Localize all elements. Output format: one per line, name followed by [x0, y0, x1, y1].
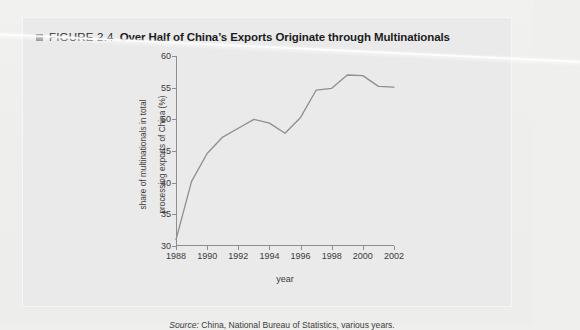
x-tick-mark: [269, 246, 270, 250]
x-tick-label: 1994: [259, 251, 279, 261]
x-tick-mark: [363, 246, 364, 250]
figure-caption: Over Half of China’s Exports Originate t…: [120, 31, 450, 43]
y-axis-label: share of multinationals in total process…: [130, 52, 146, 257]
x-tick-label: 2002: [384, 251, 404, 261]
x-tick-label: 1996: [291, 251, 311, 261]
data-line-series: [176, 56, 394, 246]
source-note: Source: China, National Bureau of Statis…: [132, 320, 432, 330]
x-tick-mark: [176, 246, 177, 250]
x-tick-label: 1998: [322, 251, 342, 261]
x-tick-mark: [394, 246, 395, 250]
source-text: China, National Bureau of Statistics, va…: [199, 320, 395, 330]
x-tick-label: 1992: [228, 251, 248, 261]
x-tick-label: 1990: [197, 251, 217, 261]
y-axis-label-line-1: share of multinationals in total: [139, 52, 148, 257]
x-tick-mark: [207, 246, 208, 250]
square-bullet-icon: [36, 34, 43, 41]
x-tick-mark: [301, 246, 302, 250]
figure-container: FIGURE 2.4 Over Half of China’s Exports …: [22, 17, 512, 307]
x-tick-mark: [238, 246, 239, 250]
chart-plot: share of multinationals in total process…: [132, 52, 432, 297]
x-tick-label: 2000: [353, 251, 373, 261]
figure-number: FIGURE 2.4: [49, 31, 114, 43]
x-tick-mark: [332, 246, 333, 250]
source-prefix: Source:: [169, 320, 199, 330]
axis-area: 30354045505560 1988199019921994199619982…: [176, 56, 394, 246]
figure-title-row: FIGURE 2.4 Over Half of China’s Exports …: [36, 31, 502, 43]
x-tick-label: 1988: [166, 251, 186, 261]
x-axis-label: year: [176, 274, 394, 284]
